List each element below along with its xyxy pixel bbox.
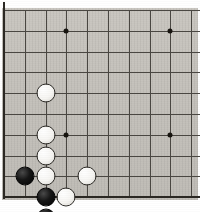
board-stones xyxy=(0,0,200,212)
stone-white-2[interactable] xyxy=(36,125,55,144)
stone-black-3[interactable] xyxy=(36,209,55,213)
stone-white-6[interactable] xyxy=(57,188,76,207)
go-board-diagram xyxy=(0,0,200,212)
stone-white-4[interactable] xyxy=(36,167,55,186)
stone-black-2[interactable] xyxy=(36,188,55,207)
stone-white-3[interactable] xyxy=(36,146,55,165)
stone-white-5[interactable] xyxy=(78,167,97,186)
stone-white-1[interactable] xyxy=(36,84,55,103)
stone-black-1[interactable] xyxy=(15,167,34,186)
